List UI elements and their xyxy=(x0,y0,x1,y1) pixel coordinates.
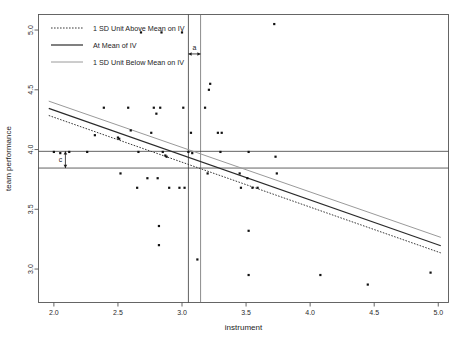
plot-background xyxy=(0,0,461,339)
data-point xyxy=(53,151,55,153)
data-point xyxy=(155,113,157,115)
data-point xyxy=(248,274,250,276)
x-tick-label: 4.0 xyxy=(305,309,315,316)
data-point xyxy=(158,225,160,227)
data-point xyxy=(162,151,164,153)
legend-entry-label: 1 SD Unit Below Mean on IV xyxy=(93,58,184,67)
data-point xyxy=(130,129,132,131)
data-point xyxy=(273,23,275,25)
data-point xyxy=(178,187,180,189)
data-point xyxy=(246,177,248,179)
x-tick-label: 2.5 xyxy=(113,309,123,316)
data-point xyxy=(146,177,148,179)
x-tick-label: 3.5 xyxy=(241,309,251,316)
data-point xyxy=(240,187,242,189)
data-point xyxy=(248,151,250,153)
data-point xyxy=(153,107,155,109)
data-point xyxy=(319,274,321,276)
y-axis-title: team performance xyxy=(4,125,13,190)
data-point xyxy=(103,107,105,109)
data-point xyxy=(204,107,206,109)
data-point xyxy=(248,230,250,232)
data-point xyxy=(59,152,61,154)
chart-figure: 5.04.54.03.53.0 2.02.53.03.54.04.55.0 ac… xyxy=(0,0,461,339)
data-point xyxy=(137,151,139,153)
data-point xyxy=(219,151,221,153)
data-point xyxy=(196,258,198,260)
data-point xyxy=(190,132,192,134)
data-point xyxy=(94,134,96,136)
legend-entry-label: 1 SD Unit Above Mean on IV xyxy=(93,24,185,33)
legend-entry-label: At Mean of IV xyxy=(93,41,137,50)
data-point xyxy=(429,272,431,274)
data-point xyxy=(187,151,189,153)
y-tick-label: 5.0 xyxy=(27,25,34,35)
data-point xyxy=(127,107,129,109)
x-tick-label: 3.0 xyxy=(177,309,187,316)
y-tick-label: 3.5 xyxy=(27,204,34,214)
data-point xyxy=(239,172,241,174)
data-point xyxy=(119,172,121,174)
data-point xyxy=(118,138,120,140)
data-point xyxy=(256,187,258,189)
annotation-label-c: c xyxy=(59,156,63,163)
data-point xyxy=(251,187,253,189)
data-point xyxy=(136,187,138,189)
data-point xyxy=(367,283,369,285)
data-point xyxy=(166,156,168,158)
data-point xyxy=(182,107,184,109)
data-point xyxy=(159,107,161,109)
data-point xyxy=(158,244,160,246)
data-point xyxy=(208,89,210,91)
data-point xyxy=(86,151,88,153)
data-point xyxy=(183,187,185,189)
data-point xyxy=(68,151,70,153)
scatter-plot: 5.04.54.03.53.0 2.02.53.03.54.04.55.0 ac… xyxy=(0,0,461,339)
x-tick-label: 2.0 xyxy=(49,309,59,316)
annotation-label-a: a xyxy=(193,44,197,51)
y-tick-label: 3.0 xyxy=(27,264,34,274)
data-point xyxy=(274,156,276,158)
x-tick-label: 4.5 xyxy=(369,309,379,316)
data-point xyxy=(191,152,193,154)
data-point xyxy=(217,132,219,134)
data-point xyxy=(276,172,278,174)
data-point xyxy=(221,132,223,134)
x-tick-label: 5.0 xyxy=(433,309,443,316)
data-point xyxy=(207,172,209,174)
data-point xyxy=(209,83,211,85)
data-point xyxy=(157,177,159,179)
y-tick-label: 4.0 xyxy=(27,145,34,155)
y-tick-label: 4.5 xyxy=(27,85,34,95)
data-point xyxy=(168,187,170,189)
x-axis-title: instrument xyxy=(225,323,263,332)
data-point xyxy=(150,132,152,134)
